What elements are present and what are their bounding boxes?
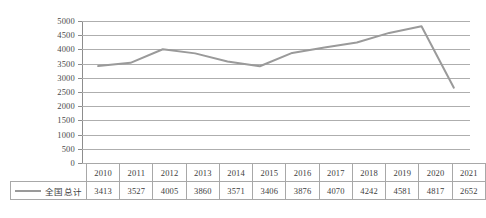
table-value-cell: 4581 bbox=[386, 182, 419, 200]
legend-cell: 全国总计 bbox=[11, 182, 87, 200]
table-header-cell: 2011 bbox=[120, 164, 153, 182]
table-header-cell: 2014 bbox=[219, 164, 252, 182]
table-value-cell: 3876 bbox=[286, 182, 319, 200]
y-tick-label: 3500 bbox=[57, 59, 75, 69]
y-tickmark bbox=[78, 135, 82, 136]
plot-area bbox=[82, 21, 470, 163]
y-tick-label: 4000 bbox=[57, 44, 75, 54]
table-header-cell: 2012 bbox=[153, 164, 186, 182]
y-tickmark bbox=[78, 149, 82, 150]
table-header-cell: 2010 bbox=[86, 164, 119, 182]
table-value-cell: 4242 bbox=[352, 182, 385, 200]
legend-line-swatch-icon bbox=[15, 190, 41, 192]
y-tick-label: 4500 bbox=[57, 30, 75, 40]
table-header-cell: 2017 bbox=[319, 164, 352, 182]
y-tickmark bbox=[78, 106, 82, 107]
y-tick-label: 1000 bbox=[57, 130, 75, 140]
table-value-cell: 3413 bbox=[86, 182, 119, 200]
table-row-values: 全国总计 34133527400538603571340638764070424… bbox=[11, 182, 486, 200]
y-axis-labels: 5000450040003500300025002000150010005000 bbox=[30, 15, 79, 163]
y-tickmark bbox=[78, 120, 82, 121]
table-value-cell: 3860 bbox=[186, 182, 219, 200]
y-tick-label: 1500 bbox=[57, 115, 75, 125]
table-header-cell: 2021 bbox=[452, 164, 485, 182]
table-value-cell: 3406 bbox=[253, 182, 286, 200]
y-tick-label: 5000 bbox=[57, 16, 75, 26]
data-table: 2010201120122013201420152016201720182019… bbox=[10, 163, 486, 200]
series-line-national-total bbox=[82, 21, 470, 163]
table-value-cell: 2652 bbox=[452, 182, 485, 200]
y-tick-label: 3000 bbox=[57, 73, 75, 83]
table-header-cell: 2018 bbox=[352, 164, 385, 182]
y-tickmark bbox=[78, 78, 82, 79]
y-tickmark bbox=[78, 35, 82, 36]
legend-label: 全国总计 bbox=[45, 185, 82, 197]
table-value-cell: 3571 bbox=[219, 182, 252, 200]
table-row-header: 2010201120122013201420152016201720182019… bbox=[11, 164, 486, 182]
table-header-cell: 2013 bbox=[186, 164, 219, 182]
y-tickmark bbox=[78, 64, 82, 65]
table-header-cell: 2015 bbox=[253, 164, 286, 182]
table-header-cell: 2020 bbox=[419, 164, 452, 182]
table-corner-cell bbox=[11, 164, 87, 182]
table-header-cell: 2016 bbox=[286, 164, 319, 182]
table-value-cell: 3527 bbox=[120, 182, 153, 200]
table-header-cell: 2019 bbox=[386, 164, 419, 182]
table-value-cell: 4817 bbox=[419, 182, 452, 200]
y-tickmark bbox=[78, 163, 82, 164]
y-tickmark bbox=[78, 49, 82, 50]
y-tick-label: 2000 bbox=[57, 101, 75, 111]
y-tickmark bbox=[78, 92, 82, 93]
series-polyline bbox=[98, 26, 454, 87]
line-chart-with-data-table: 5000450040003500300025002000150010005000… bbox=[0, 0, 486, 218]
y-tick-label: 500 bbox=[62, 144, 75, 154]
y-tick-label: 2500 bbox=[57, 87, 75, 97]
y-tickmark bbox=[78, 21, 82, 22]
table-value-cell: 4070 bbox=[319, 182, 352, 200]
table-value-cell: 4005 bbox=[153, 182, 186, 200]
